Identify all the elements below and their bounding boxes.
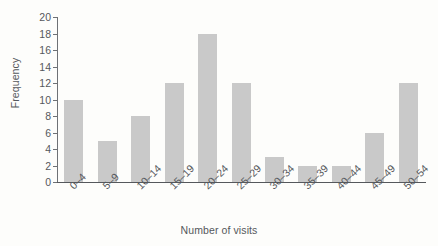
- y-axis-tick-label: 6: [45, 127, 51, 139]
- bar: [232, 83, 251, 182]
- y-axis-tick-label: 8: [45, 110, 51, 122]
- y-axis-tick-label: 20: [39, 11, 51, 23]
- y-axis-tick-label: 16: [39, 44, 51, 56]
- y-axis-tick-label: 18: [39, 28, 51, 40]
- bar: [198, 34, 217, 183]
- y-axis-tick-label: 0: [45, 176, 51, 188]
- y-axis-tick-label: 12: [39, 77, 51, 89]
- y-axis-tick-label: 4: [45, 143, 51, 155]
- bars-layer: [57, 17, 425, 182]
- bar: [165, 83, 184, 182]
- y-axis-title: Frequency: [9, 38, 21, 128]
- y-axis-tick-label: 2: [45, 160, 51, 172]
- x-axis-title: Number of visits: [0, 224, 438, 236]
- bar: [64, 100, 83, 183]
- y-axis-tick-label: 14: [39, 61, 51, 73]
- histogram-chart: Frequency 02468101214161820 0–45–910–141…: [0, 0, 438, 246]
- x-axis-tick-labels: 0–45–910–1415–1920–2425–2930–3435–3940–4…: [57, 183, 425, 223]
- plot-area: 02468101214161820: [57, 17, 425, 182]
- y-axis-tick-label: 10: [39, 94, 51, 106]
